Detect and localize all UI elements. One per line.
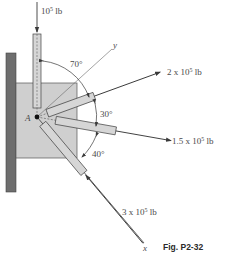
force-label-vertical: 105 lb (41, 6, 63, 16)
force-arrow-upper (94, 72, 160, 96)
gusset-plate-diagram: 105 lb 2 x 105 lb 1.5 x 105 lb 3 x 105 l… (0, 0, 231, 262)
member-vertical (33, 2, 41, 117)
force-label-lower: 3 x 105 lb (122, 207, 157, 217)
angle-label-30: 30° (100, 109, 113, 119)
x-axis-label: x (142, 243, 147, 253)
angle-arc-30 (95, 103, 97, 126)
figure-caption: Fig. P2-32 (163, 242, 203, 252)
point-a-label: A (24, 113, 31, 123)
angle-label-70: 70° (70, 59, 83, 69)
point-a-marker (35, 115, 40, 120)
y-axis-label: y (112, 40, 117, 50)
force-arrow-middle (116, 131, 171, 141)
force-label-middle: 1.5 x 105 lb (172, 136, 214, 146)
force-label-upper: 2 x 105 lb (167, 67, 202, 77)
angle-label-40: 40° (92, 149, 105, 159)
wall (6, 53, 16, 192)
